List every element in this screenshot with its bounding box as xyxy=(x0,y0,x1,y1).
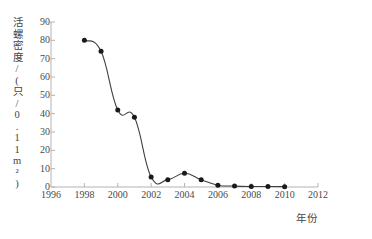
x-tick-label-2004: 2004 xyxy=(175,190,195,200)
series-line-snail-density xyxy=(84,40,284,186)
y-axis-ticks xyxy=(51,22,55,187)
data-series-group xyxy=(82,38,287,189)
data-point-2005 xyxy=(199,177,204,182)
y-axis-line xyxy=(47,22,51,187)
x-tick-label-2010: 2010 xyxy=(275,190,295,200)
data-point-2003 xyxy=(165,177,170,182)
x-tick-label-2012: 2012 xyxy=(308,190,328,200)
x-tick-label-2002: 2002 xyxy=(141,190,161,200)
chart-container: 活螺密度/(只/0.11m²) 0102030405060708090 年份 1… xyxy=(0,0,372,239)
series-markers xyxy=(82,38,287,189)
plot-area xyxy=(0,0,372,239)
data-point-2009 xyxy=(265,184,270,189)
data-point-2006 xyxy=(215,183,220,188)
x-tick-label-2000: 2000 xyxy=(108,190,128,200)
data-point-1999 xyxy=(99,49,104,54)
x-tick-label-1998: 1998 xyxy=(74,190,94,200)
x-tick-label-1996: 1996 xyxy=(41,190,61,200)
data-point-2004 xyxy=(182,171,187,176)
data-point-2000 xyxy=(115,108,120,113)
x-tick-label-2008: 2008 xyxy=(241,190,261,200)
data-point-2001 xyxy=(132,115,137,120)
x-tick-label-2006: 2006 xyxy=(208,190,228,200)
data-point-1998 xyxy=(82,38,87,43)
data-point-2002 xyxy=(149,174,154,179)
axes-group xyxy=(47,22,318,187)
data-point-2007 xyxy=(232,184,237,189)
